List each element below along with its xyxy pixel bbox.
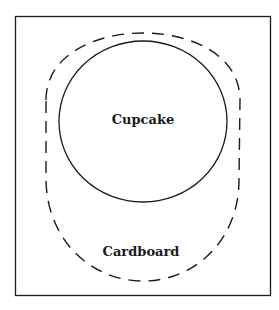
cupcake-label: Cupcake (112, 112, 175, 127)
diagram-canvas: Cupcake Cardboard (0, 0, 279, 310)
cardboard-label: Cardboard (103, 244, 180, 259)
